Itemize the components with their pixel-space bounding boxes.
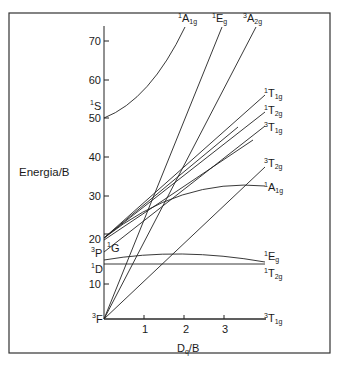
curve-1T1g (104, 95, 265, 238)
curve-1A1g-from-1G (104, 185, 265, 238)
term-1S: 1S (90, 99, 101, 112)
curve-1A1g-from-1S (104, 27, 185, 118)
term-1G: 1G (107, 241, 119, 254)
curve-1G-branch-a (104, 127, 238, 238)
label-1A1g-top: 1A1g (178, 12, 197, 26)
curve-3A2g (104, 27, 256, 319)
label-1Eg-top: 1Eg (212, 12, 227, 26)
term-3F: 3F (92, 312, 103, 325)
label-1Eg-lower: 1Eg (264, 250, 279, 264)
curve-3T2g (104, 167, 265, 319)
label-3T1g-ground: 3T1g (264, 312, 283, 326)
x-tick-2: 2 (183, 323, 189, 335)
curve-1G-branch-b (104, 140, 253, 240)
x-axis-title: Dq/B (177, 342, 199, 356)
label-1T2g-upper: 1T2g (264, 104, 283, 118)
curve-labels: 1A1g 1Eg 3A2g 1T1g 1T2g 3T1g 3T2g 1A1g 1… (178, 12, 283, 326)
label-3A2g-top: 3A2g (243, 12, 262, 26)
y-tick-50: 50 (89, 112, 101, 124)
label-3T2g: 3T2g (264, 157, 283, 171)
x-tick-3: 3 (222, 323, 228, 335)
axes (104, 26, 266, 319)
y-tick-70: 70 (89, 35, 101, 47)
curve-1Eg-lower (104, 254, 265, 262)
x-tick-labels: 1 2 3 (142, 323, 228, 335)
y-tick-30: 30 (89, 190, 101, 202)
y-axis-title: Energia/B (19, 166, 70, 178)
tanabe-sugano-diagram: 70 60 50 40 30 20 10 1 2 3 Energia/B Dq/… (0, 0, 342, 378)
y-tick-10: 10 (89, 278, 101, 290)
label-1A1g-mid: 1A1g (264, 181, 283, 195)
y-tick-60: 60 (89, 74, 101, 86)
term-1D: 1D (91, 262, 103, 275)
label-3T1g-excited: 3T1g (264, 121, 283, 135)
x-tick-1: 1 (142, 323, 148, 335)
curve-1T2g-upper (104, 112, 265, 238)
label-1T2g-lower: 1T2g (264, 267, 283, 281)
term-3P: 3P (91, 246, 102, 259)
label-1T1g: 1T1g (264, 87, 283, 101)
energy-curves (104, 27, 266, 319)
figure-frame (9, 13, 330, 353)
y-tick-40: 40 (89, 151, 101, 163)
y-tick-20: 20 (89, 233, 101, 245)
curve-3T1g-excited (104, 126, 265, 252)
